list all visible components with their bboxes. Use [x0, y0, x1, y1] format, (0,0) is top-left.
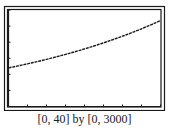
tick-marks: [9, 10, 161, 107]
data-curve: [9, 21, 161, 68]
window-caption: [0, 40] by [0, 3000]: [0, 111, 169, 127]
outer-frame: [5, 7, 165, 111]
plot-area-border: [8, 10, 162, 108]
axes: [9, 10, 161, 107]
calculator-graph: [0, 0, 169, 111]
